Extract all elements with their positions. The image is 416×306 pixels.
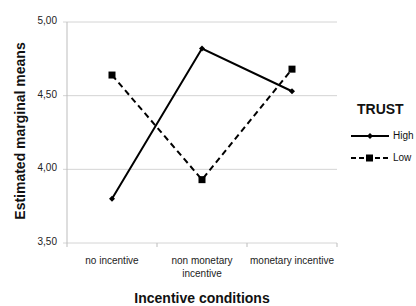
y-axis-title-text: Estimated marginal means: [12, 21, 28, 241]
legend-item-low: Low: [351, 152, 411, 163]
series-line-low: [112, 69, 292, 180]
square-marker: [199, 176, 206, 183]
x-axis-title: Incentive conditions: [67, 290, 337, 306]
square-marker: [109, 72, 116, 79]
dashed-line-square-icon: [351, 153, 389, 163]
square-marker: [289, 66, 296, 73]
x-category-label: non monetaryincentive: [157, 254, 247, 280]
x-category-label: no incentive: [67, 254, 157, 267]
legend-item-high: High: [351, 130, 414, 141]
legend-title: TRUST: [357, 101, 404, 117]
legend-label-high: High: [393, 130, 414, 141]
x-category-label: monetary incentive: [247, 254, 337, 267]
legend-label-low: Low: [393, 152, 411, 163]
solid-line-diamond-icon: [351, 131, 389, 141]
